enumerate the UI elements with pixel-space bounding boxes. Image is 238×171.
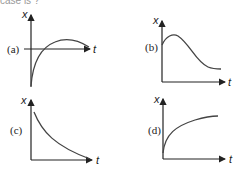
panel-b: x t (b)	[145, 14, 232, 88]
panel-label-b: (b)	[145, 41, 158, 54]
x-axis-label-b: t	[228, 76, 232, 88]
panel-label-a: (a)	[7, 43, 20, 56]
y-axis-label-d: x	[153, 93, 160, 105]
panel-label-d: (d)	[148, 124, 161, 137]
x-axis-label-d: t	[229, 153, 233, 165]
panel-a: x t (a)	[7, 8, 97, 87]
y-axis-label-a: x	[21, 8, 28, 20]
x-axis-label-c: t	[96, 154, 100, 166]
y-axis-label-b: x	[152, 14, 159, 26]
panel-label-c: (c)	[10, 124, 23, 137]
panel-c: x t (c)	[10, 94, 100, 166]
x-axis-label-a: t	[93, 43, 97, 55]
graph-panels: x t (a) x t (b) x t (c) x t (d)	[0, 0, 238, 171]
y-axis-label-c: x	[20, 94, 27, 106]
panel-d: x t (d)	[148, 93, 233, 165]
